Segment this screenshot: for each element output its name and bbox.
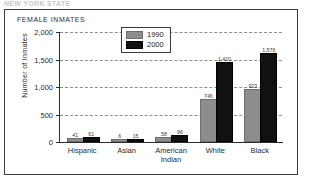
- bar-hispanic-1990: 41: [67, 138, 84, 142]
- bar-group-hispanic: 4161Hispanic: [60, 32, 104, 142]
- y-tick-label-1000: 1,000: [34, 83, 53, 92]
- bar-hispanic-2000: 61: [83, 137, 100, 142]
- chart-frame: FEMALE INMATES Number of Inmates 05001,0…: [4, 9, 298, 175]
- bar-value-label: 58: [161, 131, 167, 137]
- x-axis-line: [59, 142, 283, 143]
- x-axis-label-american-indian: AmericanIndian: [155, 146, 187, 164]
- bar-value-label: 15: [133, 133, 139, 139]
- bar-asian-2000: 15: [127, 139, 144, 143]
- legend-item-2000: 2000: [126, 41, 164, 49]
- bar-group-white: 7461,420White: [193, 32, 237, 142]
- y-tick-label-2000: 2,000: [34, 28, 53, 37]
- y-tick-label-0: 0: [49, 138, 53, 147]
- legend-swatch-2000: [126, 41, 143, 49]
- chart-legend: 1990 2000: [121, 27, 171, 53]
- bar-american-indian-1990: 58: [155, 137, 172, 142]
- y-axis-title: Number of Inmates: [21, 26, 28, 106]
- x-axis-label-hispanic: Hispanic: [68, 146, 97, 155]
- x-axis-label-white: White: [206, 146, 225, 155]
- bar-american-indian-2000: 96: [171, 135, 188, 142]
- bar-value-label: 1,420: [218, 56, 231, 62]
- bar-value-label: 923: [248, 83, 257, 89]
- chart-title: FEMALE INMATES: [17, 16, 85, 23]
- bar-black-1990: 923: [244, 89, 261, 142]
- bar-white-2000: 1,420: [216, 62, 233, 142]
- bar-asian-1990: 6: [111, 139, 128, 143]
- bar-black-2000: 1,576: [260, 53, 277, 142]
- legend-label-1990: 1990: [147, 31, 164, 39]
- bar-value-label: 41: [72, 132, 78, 138]
- y-tick-label-1500: 1,500: [34, 55, 53, 64]
- y-tick-label-500: 500: [40, 110, 53, 119]
- bar-value-label: 746: [204, 93, 213, 99]
- x-axis-label-asian: Asian: [117, 146, 136, 155]
- clipped-header-label: NEW YORK STATE: [4, 0, 124, 8]
- y-tick-mark-0: [56, 142, 60, 143]
- bar-value-label: 6: [118, 133, 121, 139]
- bar-white-1990: 746: [200, 99, 217, 142]
- plot-area: 05001,0001,5002,0004161Hispanic615Asian5…: [60, 32, 282, 142]
- bar-value-label: 1,576: [262, 47, 275, 53]
- legend-label-2000: 2000: [147, 41, 164, 49]
- legend-item-1990: 1990: [126, 31, 164, 39]
- bar-value-label: 61: [88, 131, 94, 137]
- x-axis-label-black: Black: [251, 146, 269, 155]
- legend-swatch-1990: [126, 31, 143, 39]
- bar-value-label: 96: [177, 129, 183, 135]
- bar-group-black: 9231,576Black: [238, 32, 282, 142]
- clipped-header-text: NEW YORK STATE: [4, 0, 124, 8]
